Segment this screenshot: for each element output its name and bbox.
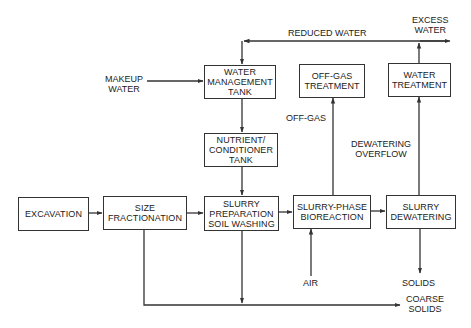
slurry-dewatering-box: SLURRY DEWATERING: [386, 195, 456, 229]
excavation-label: EXCAVATION: [25, 209, 82, 219]
slurry-preparation-box: SLURRY PREPARATION SOIL WASHING: [204, 196, 279, 231]
nutrient-conditioner-tank-box: NUTRIENT/ CONDITIONER TANK: [204, 133, 278, 167]
reduced-water-label: REDUCED WATER: [288, 28, 367, 38]
nutrient-conditioner-tank-label: NUTRIENT/ CONDITIONER TANK: [209, 135, 273, 165]
off-gas-treatment-label: OFF-GAS TREATMENT: [304, 71, 359, 91]
bioreaction-label: SLURRY-PHASE BIOREACTION: [297, 202, 367, 222]
slurry-preparation-label: SLURRY PREPARATION SOIL WASHING: [208, 199, 275, 229]
excavation-box: EXCAVATION: [18, 197, 89, 231]
slurry-dewatering-label: SLURRY DEWATERING: [391, 202, 452, 222]
coarse-solids-line: [144, 229, 400, 305]
size-fractionation-box: SIZE FRACTIONATION: [103, 196, 187, 230]
coarse-solids-label: COARSE SOLIDS: [406, 294, 444, 314]
dewatering-overflow-label: DEWATERING OVERFLOW: [351, 139, 411, 159]
water-management-tank-box: WATER MANAGEMENT TANK: [204, 65, 276, 99]
size-fractionation-label: SIZE FRACTIONATION: [108, 203, 182, 223]
off-gas-label: OFF-GAS: [286, 113, 326, 123]
water-treatment-label: WATER TREATMENT: [392, 70, 447, 90]
water-treatment-box: WATER TREATMENT: [388, 63, 451, 97]
water-management-tank-label: WATER MANAGEMENT TANK: [207, 67, 273, 97]
off-gas-treatment-box: OFF-GAS TREATMENT: [299, 64, 365, 98]
bioreaction-box: SLURRY-PHASE BIOREACTION: [293, 195, 371, 229]
air-label: AIR: [303, 278, 318, 288]
makeup-water-label: MAKEUP WATER: [105, 74, 143, 94]
excess-water-label: EXCESS WATER: [412, 15, 449, 35]
solids-label: SOLIDS: [402, 278, 435, 288]
